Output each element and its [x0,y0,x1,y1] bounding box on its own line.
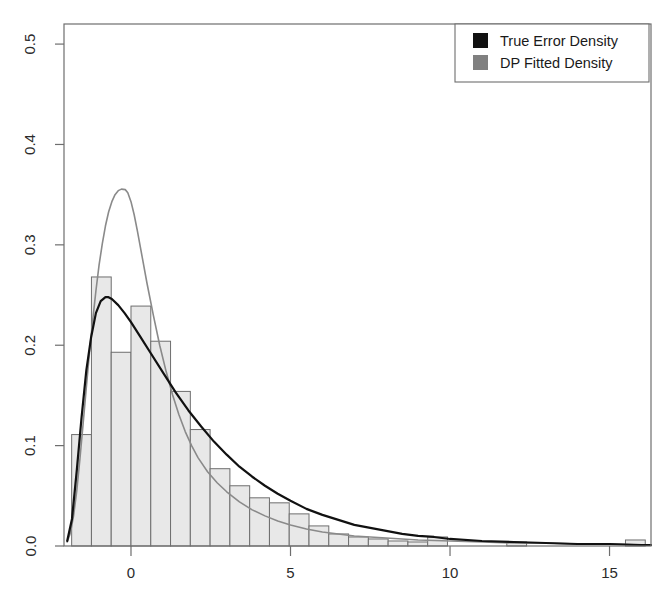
legend-swatch [473,33,488,48]
histogram-bar [289,514,309,546]
histogram-bar [210,469,230,546]
histogram-bar [171,391,191,546]
y-axis-tick-label: 0.1 [22,435,39,456]
y-axis-tick-label: 0.3 [22,234,39,255]
histogram-bar [329,534,349,546]
histogram-bar [309,526,329,546]
y-axis-tick-label: 0.5 [22,34,39,55]
histogram-bar [111,352,131,546]
x-axis-tick-label: 5 [286,564,294,581]
x-axis-ticks [131,546,610,556]
histogram-bar [230,486,250,546]
legend-label: True Error Density [500,33,619,49]
x-axis-tick-labels: 051015 [127,564,618,581]
legend-swatch [473,55,488,70]
histogram-bar [349,537,369,546]
density-plot: 0.00.10.20.30.40.5 051015 True Error Den… [0,0,667,610]
legend: True Error DensityDP Fitted Density [455,24,649,82]
histogram-bar [368,539,388,546]
y-axis-tick-label: 0.2 [22,335,39,356]
histogram-bar [190,430,210,546]
x-axis-tick-label: 0 [127,564,135,581]
y-axis-ticks [55,44,64,546]
y-axis-tick-label: 0.0 [22,536,39,557]
histogram-bars [72,277,646,546]
y-axis-tick-labels: 0.00.10.20.30.40.5 [22,34,39,557]
x-axis-tick-label: 15 [601,564,618,581]
chart-container: 0.00.10.20.30.40.5 051015 True Error Den… [0,0,667,610]
histogram-bar [151,341,171,546]
y-axis-tick-label: 0.4 [22,134,39,155]
histogram-bar [131,306,151,546]
x-axis-tick-label: 10 [442,564,459,581]
legend-label: DP Fitted Density [500,55,613,71]
histogram-bar [408,542,428,546]
histogram-bar [250,498,270,546]
histogram-bar [388,541,408,546]
